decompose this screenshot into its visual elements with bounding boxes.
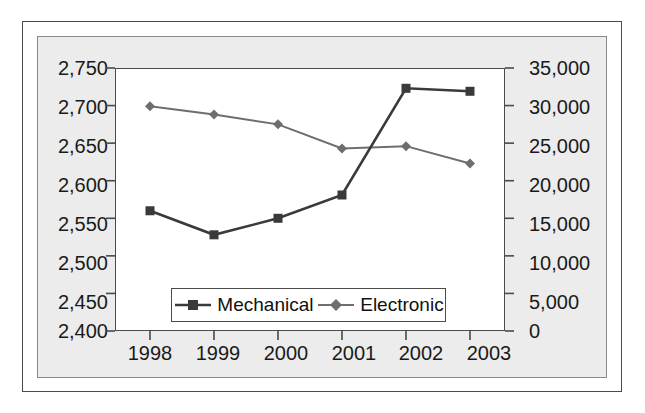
x-tick-label: 2003 (459, 342, 519, 365)
y-right-tick-label: 10,000 (529, 252, 619, 275)
y-left-tick-label: 2,550 (38, 213, 108, 236)
y-left-tick-label: 2,500 (38, 252, 108, 275)
y-left-tick-label: 2,650 (38, 135, 108, 158)
chart-legend: Mechanical Electronic (171, 288, 446, 322)
y-right-tick-label: 35,000 (529, 57, 619, 80)
y-right-tick-label: 15,000 (529, 213, 619, 236)
y-right-tick-label: 0 (529, 320, 619, 343)
x-tick-label: 1998 (120, 342, 180, 365)
y-left-tick-label: 2,750 (38, 57, 108, 80)
y-right-tick-label: 25,000 (529, 135, 619, 158)
x-tick-label: 2001 (324, 342, 384, 365)
legend-item-mechanical: Mechanical (173, 294, 313, 316)
legend-item-electronic: Electronic (316, 294, 443, 316)
y-left-tick-label: 2,600 (38, 174, 108, 197)
y-right-tick-label: 5,000 (529, 291, 619, 314)
y-right-tick-label: 20,000 (529, 174, 619, 197)
y-left-tick-label: 2,700 (38, 96, 108, 119)
diamond-marker-icon (316, 297, 356, 313)
y-left-tick-label: 2,450 (38, 291, 108, 314)
x-tick-label: 2000 (256, 342, 316, 365)
chart-figure: 2,750 2,700 2,650 2,600 2,550 2,500 2,45… (0, 0, 645, 413)
x-tick-label: 2002 (391, 342, 451, 365)
legend-label-electronic: Electronic (360, 294, 443, 316)
y-left-tick-label: 2,400 (38, 320, 108, 343)
y-right-tick-label: 30,000 (529, 96, 619, 119)
square-marker-icon (173, 297, 213, 313)
x-tick-label: 1999 (188, 342, 248, 365)
legend-label-mechanical: Mechanical (217, 294, 313, 316)
